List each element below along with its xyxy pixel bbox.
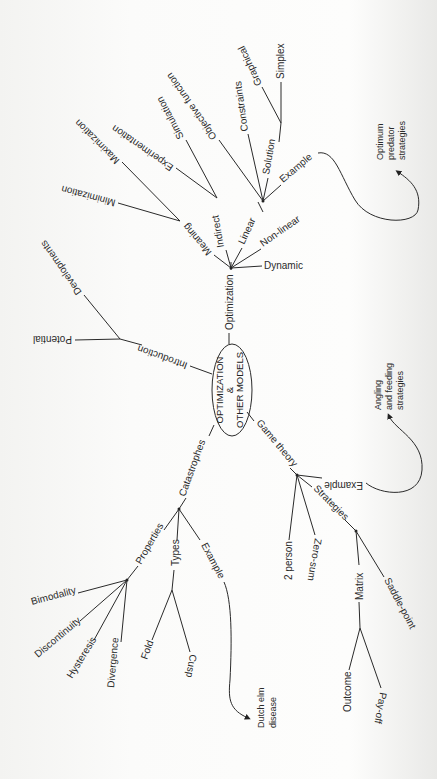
central-line-3: OTHER MODELS [234,352,245,428]
node-cusp: Cusp [184,654,199,679]
node-introduction: Introduction [136,343,189,371]
node-saddle-point: Saddle-point [382,576,418,631]
target-angling-1: Angling [373,380,383,410]
node-maximization: Maximization [72,117,121,166]
target-dutch-2: disease [268,697,278,728]
node-outcome: Outcome [342,671,353,712]
target-optimum-2: predator [386,126,396,160]
mind-map-canvas: OPTIMIZATION & OTHER MODELS Optimization… [0,0,437,779]
node-game-theory: Game theory [254,417,300,468]
node-meaning: Meaning [180,221,213,257]
target-angling-2: and feeding [384,363,394,410]
node-pay-off: Pay-off [373,692,389,725]
central-node: OPTIMIZATION & OTHER MODELS [212,344,252,436]
arrow-to-dutch-elm [224,582,248,718]
target-dutch-1: Dutch elm [256,687,266,728]
branch-game-theory: Game theory Example Angling and feeding … [247,363,422,725]
node-types: Types [170,539,181,566]
node-potential: Potential [33,334,72,345]
node-divergence: Divergence [105,636,120,688]
target-angling-3: strategies [395,370,405,410]
node-optimization: Optimization [224,274,235,330]
node-simplex: Simplex [275,43,286,79]
node-catastrophes: Catastrophes [177,438,208,498]
node-zero-sum: Zero-sum [306,538,324,582]
node-minimization: Minimization [60,184,117,209]
target-optimum-1: Optimum [375,123,385,160]
node-example-game: Example [324,480,363,491]
node-indirect: Indirect [209,214,226,248]
branch-catastrophes: Catastrophes Properties Bimodality Disco… [30,425,278,728]
target-optimum-3: strategies [397,120,407,160]
node-properties: Properties [133,521,165,566]
node-linear: Linear [236,215,258,245]
node-developments: Developments [38,238,84,297]
arrow-to-optimum-predator [318,153,419,220]
node-solution: Solution [260,138,277,176]
node-bimodality: Bimodality [30,584,77,607]
node-constraints: Constraints [232,81,250,133]
node-example-linear: Example [277,151,314,185]
node-fold: Fold [139,639,156,661]
node-dynamic: Dynamic [264,260,303,271]
node-hysteresis: Hysteresis [64,635,98,680]
node-matrix: Matrix [354,573,365,600]
node-experimentation: Experimentation [110,123,176,173]
node-2-person: 2 person [283,541,294,580]
node-discontinuity: Discontinuity [32,615,83,660]
branch-optimization: Optimization Meaning Minimization Maximi… [60,43,419,344]
branch-introduction: Introduction Developments Potential [33,238,212,374]
node-example-catastrophes: Example [199,541,227,581]
node-non-linear: Non-linear [258,213,303,249]
mind-map-diagram: OPTIMIZATION & OTHER MODELS Optimization… [0,0,437,779]
arrow-to-angling [366,416,422,492]
